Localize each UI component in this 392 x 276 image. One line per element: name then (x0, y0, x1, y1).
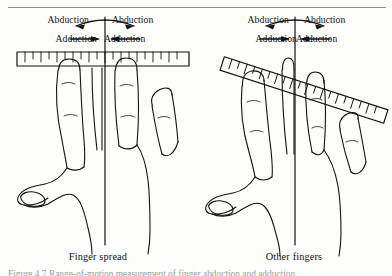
middle-finger-center (282, 58, 294, 154)
adduction-label-row-left: Adduction Adduction (0, 32, 196, 46)
thumb-outline (212, 203, 280, 256)
thumbnail (21, 192, 46, 207)
abduction-label-row-left: Abduction Abduction (0, 13, 196, 27)
abduction-label-right: Abduction (304, 13, 345, 27)
little-finger-right (152, 88, 178, 156)
thumb-outline (24, 194, 92, 254)
adduction-label-right: Adduction (296, 32, 337, 46)
fingernail-ring (307, 72, 325, 84)
abduction-label-row-right: Abduction Abduction (196, 13, 392, 27)
palm-right-edge (137, 145, 150, 254)
hand-palm-outline (206, 150, 341, 256)
fingernail-ring (116, 58, 138, 70)
index-finger-left (57, 59, 85, 170)
abduction-label-right: Abduction (112, 13, 153, 27)
fingernail-middle (282, 58, 294, 70)
ring-finger-right (115, 58, 139, 149)
measuring-ruler-horizontal (17, 52, 189, 66)
figure-caption-line: Figure 4.7 Range-of-motion measurement o… (8, 269, 384, 276)
palm-right-edge (324, 150, 341, 256)
thumbnail (209, 201, 234, 216)
adduction-label-left: Adduction (56, 32, 97, 46)
fingernail-little (152, 88, 172, 106)
measuring-ruler-tilted (220, 57, 388, 123)
middle-finger-left (92, 68, 102, 150)
fingernail-index (59, 59, 81, 70)
panel-other-fingers: Abduction Abduction Adduction Adduction (196, 0, 392, 276)
panel-caption-finger-spread: Finger spread (0, 251, 196, 262)
abduction-label-left: Abduction (48, 13, 89, 27)
little-finger-right (340, 113, 366, 174)
adduction-label-left: Adduction (256, 32, 297, 46)
panel-caption-other-fingers: Other fingers (196, 251, 392, 262)
fingernail-index (242, 71, 264, 86)
adduction-label-right: Adduction (104, 32, 145, 46)
index-finger-left (241, 71, 272, 180)
hand-palm-outline (18, 145, 150, 254)
adduction-label-row-right: Adduction Adduction (196, 32, 392, 46)
fingernail-little (340, 113, 359, 130)
ring-finger-right (306, 72, 326, 155)
panel-finger-spread: Abduction Abduction Adduction Adduction (0, 0, 196, 276)
figure-container: Abduction Abduction Adduction Adduction (0, 0, 392, 276)
abduction-label-left: Abduction (248, 13, 289, 27)
